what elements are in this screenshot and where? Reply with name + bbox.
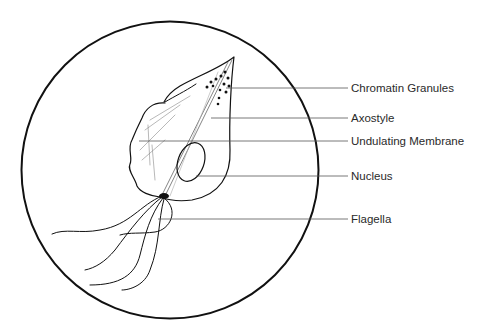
label-chromatin-granules: Chromatin Granules bbox=[351, 81, 454, 95]
label-flagella: Flagella bbox=[351, 212, 391, 226]
label-undulating-membrane: Undulating Membrane bbox=[351, 134, 464, 148]
organism bbox=[52, 57, 234, 290]
diagram-canvas bbox=[0, 0, 487, 335]
flagella bbox=[52, 196, 172, 290]
undulating-membrane-outline bbox=[129, 103, 165, 197]
nucleus bbox=[172, 139, 210, 185]
label-nucleus: Nucleus bbox=[351, 169, 393, 183]
label-axostyle: Axostyle bbox=[351, 111, 394, 125]
microscope-field bbox=[22, 22, 319, 319]
